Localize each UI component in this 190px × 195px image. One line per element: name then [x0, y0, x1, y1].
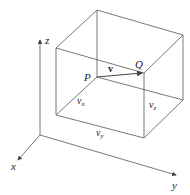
point-q-label: Q: [135, 58, 143, 70]
y-axis-label: y: [171, 179, 177, 191]
edge-bottom-back: [97, 77, 183, 100]
vector-v-label: v: [108, 63, 113, 74]
rectangular-box: [56, 10, 183, 138]
edge-top-front: [56, 48, 144, 73]
vx-label: vx: [77, 95, 85, 108]
edge-top-left: [56, 10, 97, 48]
edge-top-right: [144, 35, 183, 73]
vz-label: vz: [149, 99, 156, 112]
point-p-label: P: [83, 71, 91, 83]
z-axis-label: z: [44, 34, 50, 46]
vy-label: vy: [96, 127, 104, 140]
x-axis: [18, 135, 40, 160]
y-axis: [40, 135, 176, 175]
vector-v-arrow: [97, 73, 142, 77]
edge-top-back: [97, 10, 183, 35]
vector-box-diagram: z x y P Q v vx vy vz: [0, 0, 190, 195]
x-axis-label: x: [10, 160, 16, 172]
